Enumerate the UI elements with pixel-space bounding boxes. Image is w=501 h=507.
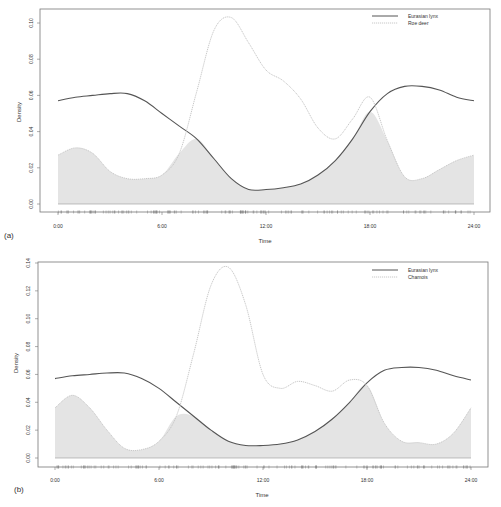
series-lines (55, 266, 471, 450)
y-tick-label: 0.08 (25, 341, 31, 351)
legend: Eurasian lynxChamois (372, 267, 439, 280)
panel-label: (b) (14, 485, 24, 494)
y-tick-label: 0.02 (25, 425, 31, 435)
x-tick-label: 24:00 (465, 477, 478, 483)
y-tick-label: 0.06 (25, 369, 31, 379)
legend-label: Eurasian lynx (408, 267, 439, 273)
overlap-fill (55, 385, 471, 458)
series-line-chamois (55, 266, 471, 450)
y-tick-label: 0.14 (25, 258, 31, 268)
x-tick-label: 18:00 (361, 477, 374, 483)
x-tick-label: 6:00 (154, 477, 164, 483)
chart-panel-b: 0.000.020.040.060.080.100.120.140:006:00… (0, 0, 501, 507)
x-axis-label: Time (255, 492, 269, 498)
y-tick-label: 0.00 (25, 453, 31, 463)
y-axis-label: Density (13, 353, 19, 373)
y-tick-label: 0.12 (25, 286, 31, 296)
x-tick-label: 12:00 (257, 477, 270, 483)
y-tick-label: 0.04 (25, 397, 31, 407)
x-tick-label: 0:00 (50, 477, 60, 483)
series-line-eurasian-lynx (55, 367, 471, 446)
density-chart-b: 0.000.020.040.060.080.100.120.140:006:00… (0, 0, 501, 507)
y-tick-label: 0.10 (25, 314, 31, 324)
overlap-area (55, 385, 471, 458)
legend-label: Chamois (408, 274, 428, 280)
